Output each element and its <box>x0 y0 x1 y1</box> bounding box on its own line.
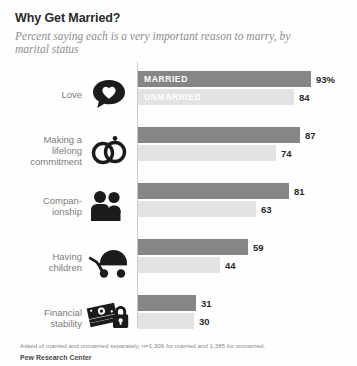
chart-subtitle: Percent saying each is a very important … <box>15 30 315 56</box>
chart-sheet: Why Get Married? Percent saying each is … <box>0 0 357 366</box>
category-label-financial: Financialstability <box>0 307 82 329</box>
chart-source: Pew Research Center <box>20 354 92 361</box>
bar-group-commitment: 87 74 <box>138 127 357 163</box>
category-label-commitment: Making alifelongcommitment <box>0 134 82 167</box>
bar-value-married: 81 <box>294 186 305 197</box>
bar-group-love: MARRIED 93% UNMARRIED 84 <box>138 71 357 107</box>
chart-row: Havingchildren 59 44 <box>0 234 357 290</box>
category-label-love: Love <box>0 89 82 100</box>
bar-line-married: 59 <box>138 239 357 255</box>
bar-married <box>138 239 248 255</box>
bar-value-unmarried: 63 <box>261 204 272 215</box>
bar-line-married: 31 <box>138 295 357 311</box>
money-lock-icon <box>84 298 134 338</box>
bar-married <box>138 183 289 199</box>
bar-group-companionship: 81 63 <box>138 183 357 219</box>
bar-value-married: 93% <box>316 74 335 85</box>
bar-value-unmarried: 74 <box>281 148 292 159</box>
chart-footnote: Asked of married and unmarried separatel… <box>20 342 345 350</box>
bar-value-unmarried: 84 <box>299 92 310 103</box>
heart-speech-bubble-icon <box>84 74 134 114</box>
couple-icon <box>84 186 134 226</box>
bar-line-unmarried: 30 <box>138 313 357 329</box>
bar-line-married: 87 <box>138 127 357 143</box>
chart-row: Financialstability <box>0 290 357 346</box>
legend-unmarried-label: UNMARRIED <box>144 92 201 102</box>
bar-value-married: 31 <box>201 298 212 309</box>
chart-row: Making alifelongcommitment 87 74 <box>0 122 357 178</box>
bar-unmarried <box>138 257 220 273</box>
page-title: Why Get Married? <box>15 11 120 25</box>
bar-unmarried: UNMARRIED <box>138 89 294 105</box>
bar-line-married: 81 <box>138 183 357 199</box>
bar-married <box>138 127 300 143</box>
bar-line-unmarried: UNMARRIED 84 <box>138 89 357 105</box>
legend-married-label: MARRIED <box>144 74 188 84</box>
bar-group-financial: 31 30 <box>138 295 357 331</box>
bar-unmarried <box>138 201 256 217</box>
bar-married: MARRIED <box>138 71 311 87</box>
bar-group-children: 59 44 <box>138 239 357 275</box>
bar-line-unmarried: 44 <box>138 257 357 273</box>
category-label-children: Havingchildren <box>0 251 82 273</box>
bar-value-married: 59 <box>253 242 264 253</box>
bar-value-unmarried: 44 <box>225 260 236 271</box>
bar-line-unmarried: 74 <box>138 145 357 161</box>
chart-row: Love MARRIED 93% UNMARRIED <box>0 66 357 122</box>
chart-row: Compan-ionship 81 63 <box>0 178 357 234</box>
bar-value-married: 87 <box>305 130 316 141</box>
bar-line-married: MARRIED 93% <box>138 71 357 87</box>
bar-unmarried <box>138 145 276 161</box>
wedding-rings-icon <box>84 130 134 170</box>
category-label-companionship: Compan-ionship <box>0 195 82 217</box>
bar-married <box>138 295 196 311</box>
baby-stroller-icon <box>84 242 134 282</box>
bar-line-unmarried: 63 <box>138 201 357 217</box>
bar-unmarried <box>138 313 194 329</box>
chart-rows: Love MARRIED 93% UNMARRIED <box>0 66 357 346</box>
bar-value-unmarried: 30 <box>199 316 210 327</box>
